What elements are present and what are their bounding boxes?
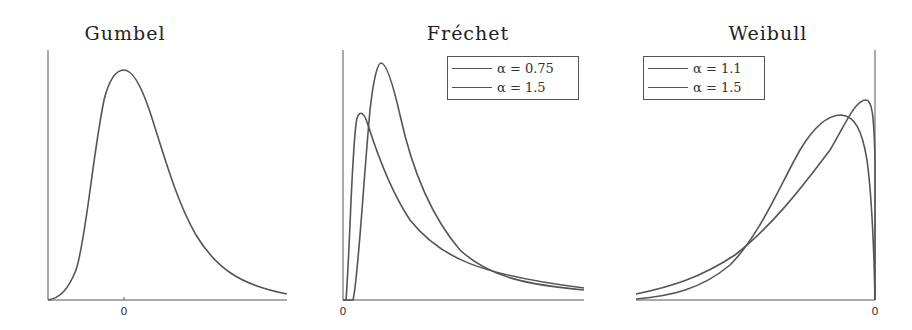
plot-canvas <box>0 0 912 330</box>
legend-entry: α = 1.5 <box>452 78 574 97</box>
legend-line-swatch <box>452 87 492 88</box>
weibull-curve-alpha-1.1 <box>636 115 875 300</box>
legend-label: α = 0.75 <box>497 61 554 76</box>
weibull-legend: α = 1.1 α = 1.5 <box>643 56 765 100</box>
gumbel-curve <box>48 70 287 300</box>
legend-label: α = 1.5 <box>497 80 546 95</box>
gumbel-x-tick-0: 0 <box>121 305 128 318</box>
weibull-curve-alpha-1.5 <box>636 100 875 300</box>
legend-label: α = 1.5 <box>693 80 742 95</box>
frechet-curve-alpha-0.75 <box>343 113 584 300</box>
frechet-title: Fréchet <box>427 22 509 44</box>
legend-line-swatch <box>648 68 688 69</box>
weibull-title: Weibull <box>729 22 808 44</box>
legend-entry: α = 1.1 <box>648 59 760 78</box>
weibull-x-tick-0: 0 <box>872 305 879 318</box>
frechet-legend: α = 0.75 α = 1.5 <box>447 56 579 100</box>
gumbel-title: Gumbel <box>85 22 166 44</box>
legend-label: α = 1.1 <box>693 61 742 76</box>
legend-line-swatch <box>648 87 688 88</box>
gumbel-axes <box>48 50 287 300</box>
legend-entry: α = 0.75 <box>452 59 574 78</box>
extreme-value-distributions-figure: Gumbel Fréchet Weibull 0 0 0 α = 0.75 α … <box>0 0 912 330</box>
legend-entry: α = 1.5 <box>648 78 760 97</box>
frechet-x-tick-0: 0 <box>340 305 347 318</box>
legend-line-swatch <box>452 68 492 69</box>
